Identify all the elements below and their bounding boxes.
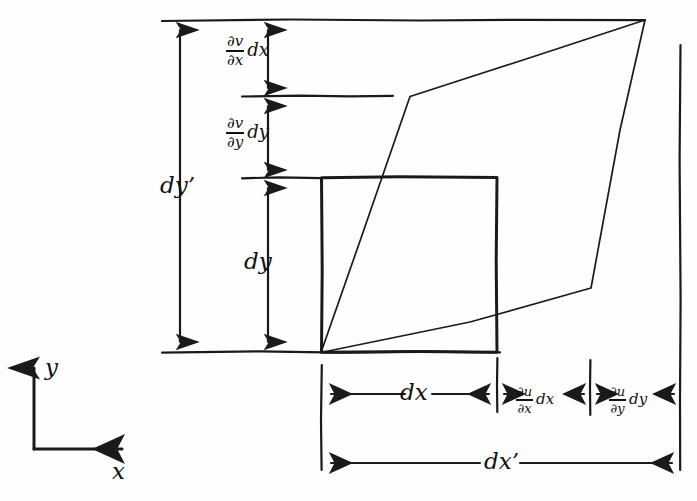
label-dy-prime: dy’ [160,174,195,197]
reference-line-second [242,96,393,97]
axis-label-y: y [45,356,58,379]
reference-line-third [242,177,321,178]
label-dv-dy-dy: ∂v ∂y dy [226,114,269,149]
right-edge-reference-line [680,45,681,470]
label-dx-prime: dx’ [484,450,519,473]
strain-diagram-canvas: dy’ ∂v ∂x dx ∂v ∂y dy dy dx ∂u [0,0,697,501]
deformed-element [321,20,645,353]
diagram-svg [0,0,697,501]
axis-label-x: x [112,460,125,483]
fraction-du-dy: ∂u ∂y [609,385,626,415]
fraction-dv-dx: ∂v ∂x [226,34,244,68]
label-du-dx-dx: ∂u ∂x dx [516,382,554,414]
multiplier-dx: dx [247,41,269,59]
label-dv-dx-dx: ∂v ∂x dx [226,32,269,67]
label-dx: dx [400,381,428,404]
multiplier-dy: dy [247,123,269,141]
multiplier-dx: dx [536,392,554,407]
label-dy: dy [244,250,272,273]
undeformed-element [322,177,498,352]
multiplier-dy: dy [629,392,647,407]
extension-tick-left [321,365,322,470]
fraction-dv-dy: ∂v ∂y [226,116,244,150]
reference-line-top [162,20,645,22]
label-du-dy-dy: ∂u ∂y dy [609,382,647,414]
fraction-du-dx: ∂u ∂x [516,385,533,415]
